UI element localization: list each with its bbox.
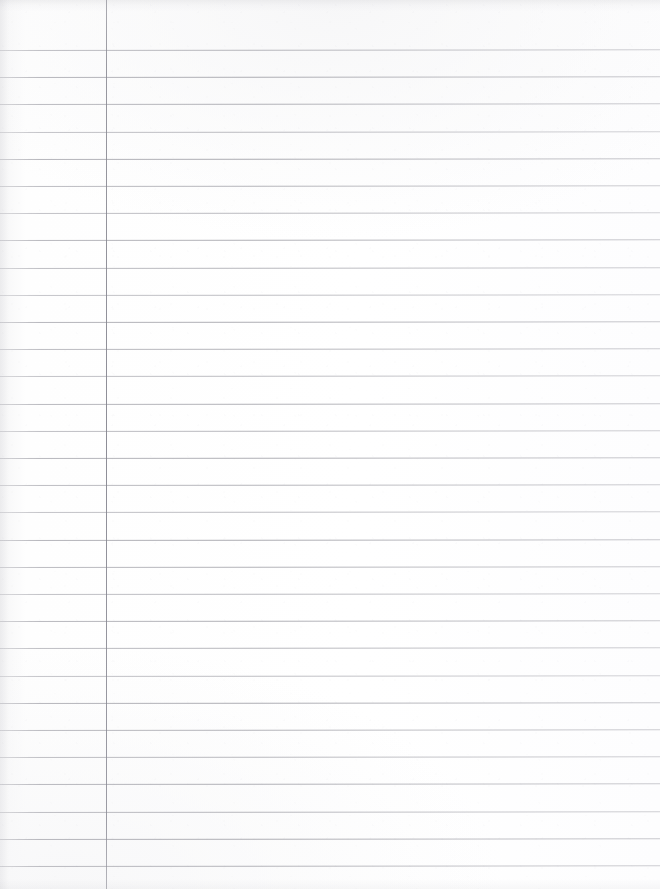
scanned-page <box>0 0 660 889</box>
writing-area[interactable] <box>0 0 660 889</box>
